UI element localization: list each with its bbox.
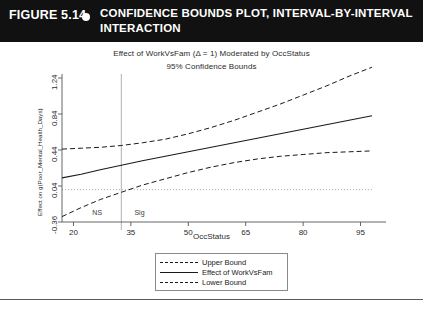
bottom-divider [0, 299, 423, 300]
series-line [62, 151, 372, 217]
y-tick-label: 0.84 [50, 110, 59, 126]
legend-item: Lower Bound [156, 277, 287, 287]
legend-swatch-solid [160, 268, 198, 276]
legend-label: Effect of WorkVsFam [202, 268, 273, 277]
series-line [62, 67, 372, 149]
x-tick-label: 35 [111, 228, 151, 237]
ns-region-label: NS [92, 209, 102, 216]
legend-item: Upper Bound [156, 257, 287, 267]
series-line [62, 116, 372, 178]
x-tick-label: 50 [168, 228, 208, 237]
legend-swatch-dashed [160, 258, 198, 266]
y-tick-label: 1.24 [50, 74, 59, 90]
y-axis-label: Effect on g(Poor_Mental_Health_Days) [36, 108, 43, 216]
y-tick-label: 0.44 [50, 146, 59, 162]
legend-swatch-dashed [160, 278, 198, 286]
x-tick-label: 65 [226, 228, 266, 237]
chart-legend: Upper BoundEffect of WorkVsFamLower Boun… [155, 253, 288, 291]
legend-label: Upper Bound [202, 258, 246, 267]
legend-label: Lower Bound [202, 278, 246, 287]
legend-item: Effect of WorkVsFam [156, 267, 287, 277]
sig-region-label: Sig [134, 209, 144, 216]
x-tick-label: 95 [341, 228, 381, 237]
y-tick-label: 0.04 [50, 182, 59, 198]
x-tick-label: 20 [53, 228, 93, 237]
x-tick-label: 80 [283, 228, 323, 237]
